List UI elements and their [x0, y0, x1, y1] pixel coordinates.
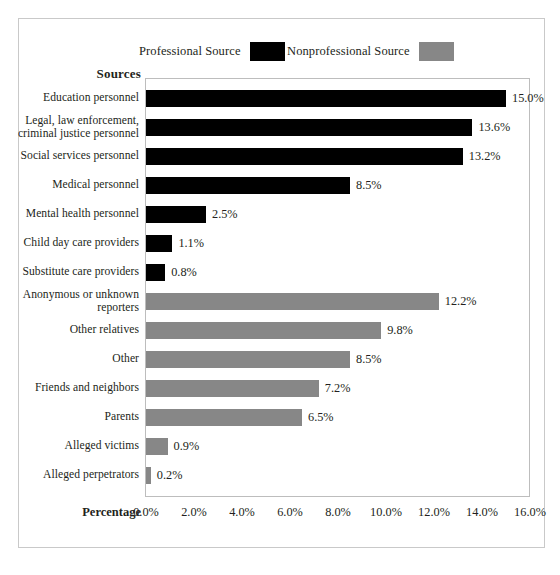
- bar-nonprofessional: [146, 438, 168, 455]
- bar-row: Substitute care providers0.8%: [0, 258, 560, 287]
- bar-track: 7.2%: [146, 374, 530, 403]
- bar-value-label: 1.1%: [172, 235, 204, 252]
- bar-chart-figure: Professional Source Nonprofessional Sour…: [0, 0, 560, 575]
- bar-category-label: Friends and neighbors: [0, 374, 139, 403]
- bar-row: Other relatives9.8%: [0, 316, 560, 345]
- bar-category-label: Education personnel: [0, 84, 139, 113]
- bar-category-label: Other: [0, 345, 139, 374]
- bar-track: 8.5%: [146, 171, 530, 200]
- bar-row: Mental health personnel2.5%: [0, 200, 560, 229]
- bar-value-label: 0.8%: [165, 264, 197, 281]
- x-axis-tick-label: 6.0%: [277, 503, 303, 521]
- legend-swatch-professional: [250, 42, 285, 61]
- bar-category-label: Substitute care providers: [0, 258, 139, 287]
- bar-professional: [146, 206, 206, 223]
- chart-legend: Professional Source Nonprofessional Sour…: [0, 38, 560, 64]
- legend-label-professional: Professional Source: [139, 44, 241, 59]
- bar-track: 9.8%: [146, 316, 530, 345]
- bar-category-label: Legal, law enforcement,criminal justice …: [0, 113, 139, 142]
- bar-category-label: Child day care providers: [0, 229, 139, 258]
- bar-professional: [146, 90, 506, 107]
- bar-category-label: Parents: [0, 403, 139, 432]
- bar-row: Alleged perpetrators0.2%: [0, 461, 560, 490]
- bar-category-label: Other relatives: [0, 316, 139, 345]
- legend-item-professional: Professional Source: [139, 38, 285, 64]
- x-axis-tick-label: 0.0%: [133, 503, 159, 521]
- legend-item-nonprofessional: Nonprofessional Source: [287, 38, 454, 64]
- bar-nonprofessional: [146, 380, 319, 397]
- bar-track: 1.1%: [146, 229, 530, 258]
- legend-swatch-nonprofessional: [419, 42, 454, 61]
- bar-value-label: 6.5%: [302, 409, 334, 426]
- bar-nonprofessional: [146, 322, 381, 339]
- bar-category-label: Social services personnel: [0, 142, 139, 171]
- bar-category-label: Anonymous or unknownreporters: [0, 287, 139, 316]
- bar-category-label: Medical personnel: [0, 171, 139, 200]
- x-axis: Percentage 0.0%2.0%4.0%6.0%8.0%10.0%12.0…: [0, 503, 560, 525]
- x-axis-tick-label: 4.0%: [229, 503, 255, 521]
- bar-rows: Education personnel15.0%Legal, law enfor…: [0, 84, 560, 498]
- bar-value-label: 0.2%: [151, 467, 183, 484]
- bar-value-label: 13.2%: [463, 148, 501, 165]
- bar-category-label: Alleged victims: [0, 432, 139, 461]
- bar-value-label: 8.5%: [350, 177, 382, 194]
- x-axis-title: Percentage: [0, 503, 141, 521]
- bar-professional: [146, 264, 165, 281]
- bar-nonprofessional: [146, 351, 350, 368]
- y-axis-title: Sources: [0, 66, 141, 82]
- bar-professional: [146, 119, 472, 136]
- bar-track: 8.5%: [146, 345, 530, 374]
- bar-row: Medical personnel8.5%: [0, 171, 560, 200]
- x-axis-tick-label: 12.0%: [418, 503, 450, 521]
- bar-row: Child day care providers1.1%: [0, 229, 560, 258]
- bar-professional: [146, 177, 350, 194]
- bar-track: 0.8%: [146, 258, 530, 287]
- bar-value-label: 13.6%: [472, 119, 510, 136]
- bar-track: 12.2%: [146, 287, 530, 316]
- bar-value-label: 9.8%: [381, 322, 413, 339]
- bar-row: Friends and neighbors7.2%: [0, 374, 560, 403]
- bar-value-label: 7.2%: [319, 380, 351, 397]
- bar-track: 13.2%: [146, 142, 530, 171]
- bar-row: Other8.5%: [0, 345, 560, 374]
- bar-row: Education personnel15.0%: [0, 84, 560, 113]
- bar-row: Social services personnel13.2%: [0, 142, 560, 171]
- bar-row: Parents6.5%: [0, 403, 560, 432]
- x-axis-tick-label: 8.0%: [325, 503, 351, 521]
- legend-label-nonprofessional: Nonprofessional Source: [287, 44, 410, 59]
- x-axis-tick-label: 2.0%: [181, 503, 207, 521]
- x-axis-tick-label: 14.0%: [466, 503, 498, 521]
- x-axis-tick-label: 10.0%: [370, 503, 402, 521]
- bar-value-label: 8.5%: [350, 351, 382, 368]
- bar-category-label: Mental health personnel: [0, 200, 139, 229]
- bar-track: 0.2%: [146, 461, 530, 490]
- bar-track: 2.5%: [146, 200, 530, 229]
- bar-professional: [146, 235, 172, 252]
- bar-professional: [146, 148, 463, 165]
- bar-value-label: 15.0%: [506, 90, 544, 107]
- bar-track: 15.0%: [146, 84, 530, 113]
- bar-value-label: 12.2%: [439, 293, 477, 310]
- bar-nonprofessional: [146, 293, 439, 310]
- x-axis-tick-label: 16.0%: [514, 503, 546, 521]
- bar-nonprofessional: [146, 409, 302, 426]
- bar-track: 13.6%: [146, 113, 530, 142]
- bar-row: Alleged victims0.9%: [0, 432, 560, 461]
- bar-value-label: 0.9%: [168, 438, 200, 455]
- bar-track: 0.9%: [146, 432, 530, 461]
- bar-value-label: 2.5%: [206, 206, 238, 223]
- bar-row: Legal, law enforcement,criminal justice …: [0, 113, 560, 142]
- bar-track: 6.5%: [146, 403, 530, 432]
- bar-category-label: Alleged perpetrators: [0, 461, 139, 490]
- bar-row: Anonymous or unknownreporters12.2%: [0, 287, 560, 316]
